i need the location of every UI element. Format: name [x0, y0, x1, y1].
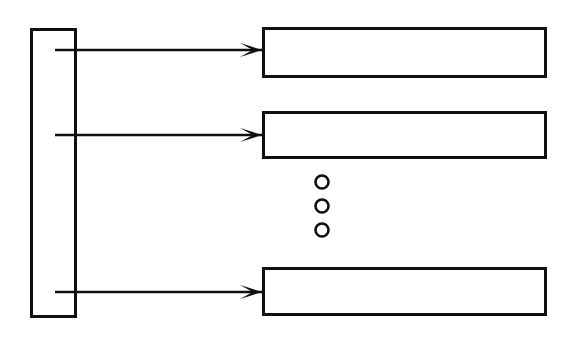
- target-block-3: [264, 269, 546, 315]
- target-block-2: [264, 113, 546, 158]
- diagram-svg: [0, 0, 574, 346]
- ellipsis-dot-2: [316, 200, 329, 213]
- source-block: [32, 30, 76, 317]
- ellipsis-dot-1: [316, 176, 329, 189]
- ellipsis-dot-3: [316, 224, 329, 237]
- target-block-1: [264, 29, 546, 77]
- diagram-canvas: [0, 0, 574, 346]
